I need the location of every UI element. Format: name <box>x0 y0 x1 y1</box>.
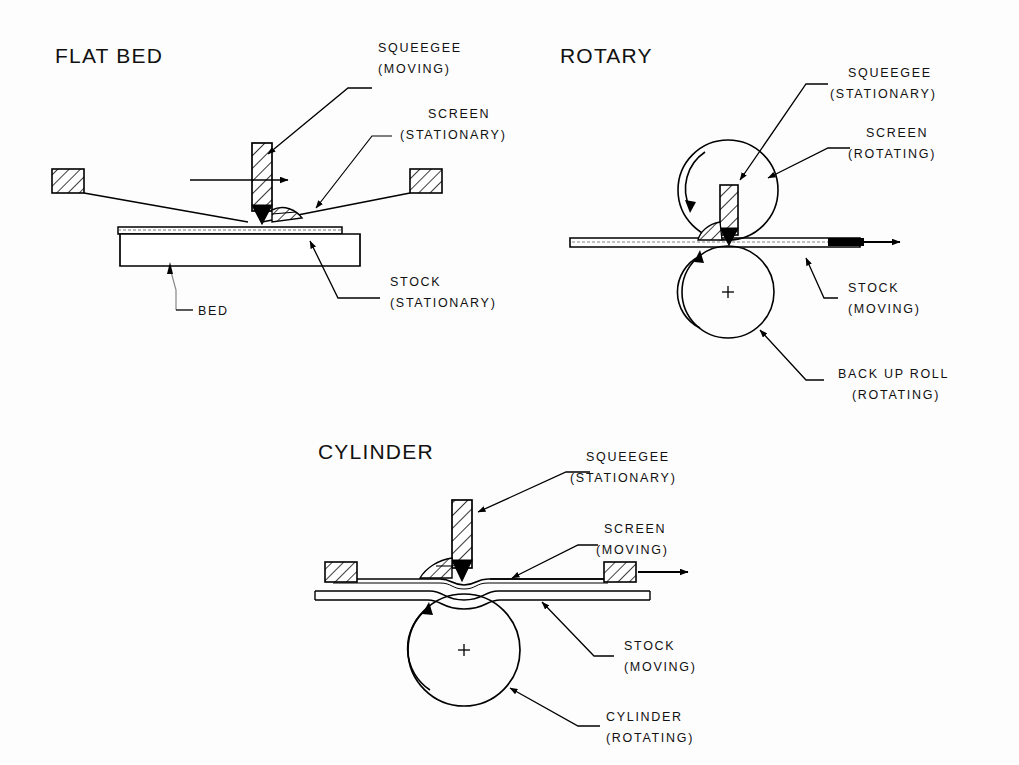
rotary-backup-label-line2: (ROTATING) <box>852 388 940 402</box>
rotary-backup-leader <box>760 330 824 380</box>
cylinder-squeegee-label-line2: (STATIONARY) <box>570 471 677 485</box>
rotary-title: ROTARY <box>560 44 653 67</box>
cylinder-screen-label-line1: SCREEN <box>604 522 666 536</box>
flat-bed-screen-left <box>84 193 248 222</box>
cylinder-squeegee-label-line1: SQUEEGEE <box>586 450 670 464</box>
rotary-ink-bead <box>698 222 722 240</box>
cylinder-roll-label-line2: (ROTATING) <box>606 731 694 745</box>
cylinder-stock-leader <box>542 602 614 656</box>
cylinder-left-frame-block <box>325 562 357 582</box>
rotary-stock-label-line2: (MOVING) <box>848 302 921 316</box>
flat-bed-screen-label-line1: SCREEN <box>428 107 490 121</box>
diagram-canvas: FLAT BED <box>0 0 1019 765</box>
cylinder-title: CYLINDER <box>318 440 434 463</box>
rotary-stock-leader <box>806 258 838 298</box>
rotary-squeegee-label-line1: SQUEEGEE <box>848 66 932 80</box>
flat-bed-right-frame-block <box>410 169 442 193</box>
cylinder-right-frame-block <box>604 562 636 582</box>
flat-bed-left-frame-block <box>52 169 84 193</box>
rotary-back-up-roll <box>677 246 774 338</box>
cylinder-stock-label-line1: STOCK <box>624 639 675 653</box>
cylinder-screen-label-line2: (MOVING) <box>596 543 669 557</box>
rotary-squeegee <box>720 185 738 245</box>
flat-bed-squeegee-label-line1: SQUEEGEE <box>378 41 462 55</box>
cylinder-ink-bead <box>420 558 452 578</box>
flat-bed-stock-label-line2: (STATIONARY) <box>390 296 497 310</box>
cylinder-squeegee <box>452 500 472 581</box>
diagram-page: FLAT BED <box>0 0 1019 765</box>
flat-bed-bed-label: BED <box>198 304 229 318</box>
flat-bed-screen-label-line2: (STATIONARY) <box>400 128 507 142</box>
rotary-diagram: ROTARY <box>560 44 949 402</box>
flat-bed-stock-label-line1: STOCK <box>390 275 441 289</box>
cylinder-stock <box>315 591 650 609</box>
flat-bed-ink-bead <box>272 208 302 222</box>
flat-bed-bed-leader <box>167 262 193 310</box>
flat-bed-stock <box>118 227 342 234</box>
cylinder-diagram: CYLINDER <box>315 440 697 745</box>
cylinder-screen-leader <box>512 545 598 578</box>
rotary-backup-label-line1: BACK UP ROLL <box>838 367 949 381</box>
flat-bed-squeegee-label-line2: (MOVING) <box>378 62 451 76</box>
cylinder-screen <box>333 579 608 589</box>
rotary-screen-leader <box>768 148 850 178</box>
cylinder-stock-label-line2: (MOVING) <box>624 660 697 674</box>
rotary-squeegee-leader <box>740 84 828 180</box>
cylinder-roll-label-line1: CYLINDER <box>606 710 683 724</box>
rotary-screen-label-line2: (ROTATING) <box>848 147 936 161</box>
flat-bed-bed-block <box>120 234 360 266</box>
flat-bed-title: FLAT BED <box>55 44 163 67</box>
cylinder-roll-leader <box>510 688 600 726</box>
rotary-stock-label-line1: STOCK <box>848 281 899 295</box>
cylinder-roll <box>408 594 520 706</box>
rotary-squeegee-label-line2: (STATIONARY) <box>830 87 937 101</box>
flat-bed-squeegee <box>252 143 272 224</box>
flat-bed-squeegee-leader <box>268 88 372 154</box>
rotary-screen-label-line1: SCREEN <box>866 126 928 140</box>
flat-bed-diagram: FLAT BED <box>52 41 507 318</box>
flat-bed-screen-leader <box>316 136 392 208</box>
